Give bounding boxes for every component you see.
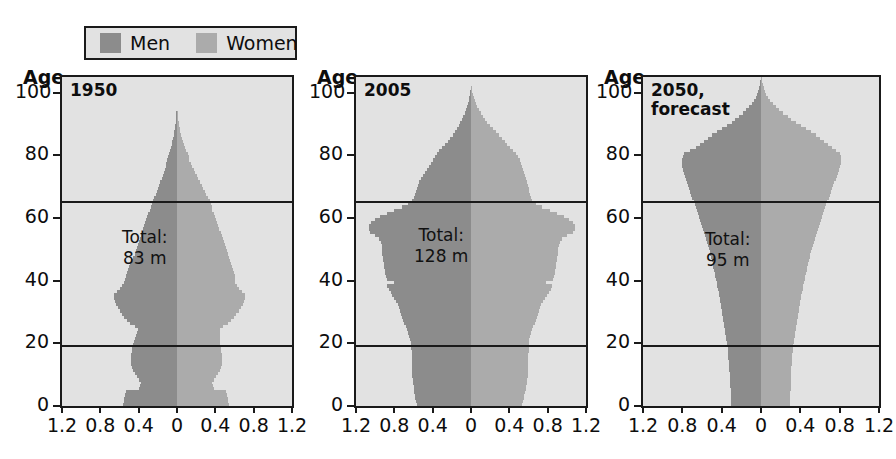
y-axis-tick [347, 342, 356, 344]
reference-line-age-65 [643, 201, 879, 203]
x-axis-tick [214, 406, 216, 413]
y-axis-label: 0 [309, 393, 343, 415]
legend: Men Women [84, 26, 297, 60]
x-axis-label: 1.2 [275, 414, 309, 436]
x-axis-tick [253, 406, 255, 413]
x-axis-label: 0 [454, 414, 488, 436]
y-axis-tick [634, 217, 643, 219]
x-axis-label: 0.4 [783, 414, 817, 436]
x-axis-label: 0.8 [377, 414, 411, 436]
y-axis-tick [634, 342, 643, 344]
bar-women [761, 77, 762, 81]
y-axis-tick [634, 92, 643, 94]
x-axis-label: 0.8 [665, 414, 699, 436]
y-axis-label: 80 [596, 142, 630, 164]
x-axis-tick [839, 406, 841, 413]
y-axis-label: 60 [309, 205, 343, 227]
bar-women [177, 111, 178, 115]
x-axis-tick [878, 406, 880, 413]
y-axis-label: 60 [596, 205, 630, 227]
x-axis-tick [721, 406, 723, 413]
bar-women [471, 86, 472, 90]
y-axis-label: 80 [15, 142, 49, 164]
y-axis-label: 100 [596, 80, 630, 102]
total-population-label: Total: 83 m [122, 227, 167, 269]
panel-title: 1950 [70, 81, 117, 100]
reference-line-age-19 [356, 345, 586, 347]
y-axis-tick [634, 280, 643, 282]
x-axis-tick [138, 406, 140, 413]
y-axis-label: 20 [596, 330, 630, 352]
x-axis-label: 0.8 [823, 414, 857, 436]
y-axis-tick [53, 92, 62, 94]
x-axis-tick [585, 406, 587, 413]
x-axis-tick [760, 406, 762, 413]
x-axis-label: 0.4 [122, 414, 156, 436]
y-axis-label: 40 [309, 268, 343, 290]
x-axis-tick [61, 406, 63, 413]
legend-label-women: Women [226, 32, 298, 54]
x-axis-tick [470, 406, 472, 413]
x-axis-label: 1.2 [569, 414, 603, 436]
x-axis-label: 0.4 [705, 414, 739, 436]
plot-area: 1950Total: 83 m [60, 75, 294, 408]
y-axis-tick [347, 92, 356, 94]
y-axis-label: 100 [15, 80, 49, 102]
reference-line-age-19 [643, 345, 879, 347]
y-axis-tick [53, 217, 62, 219]
y-axis-label: 0 [15, 393, 49, 415]
y-axis-tick [53, 154, 62, 156]
y-axis-tick [634, 154, 643, 156]
legend-entry-men: Men [100, 32, 170, 54]
plot-area: 2005Total: 128 m [354, 75, 588, 408]
reference-line-age-19 [62, 345, 292, 347]
legend-swatch-women-icon [196, 33, 217, 53]
x-axis-label: 0 [744, 414, 778, 436]
y-axis-label: 40 [596, 268, 630, 290]
plot-wrapper: 2005Total: 128 m1008060402001.20.80.400.… [354, 75, 588, 408]
y-axis-label: 100 [309, 80, 343, 102]
y-axis-tick [347, 154, 356, 156]
x-axis-label: 1.2 [862, 414, 896, 436]
x-axis-tick [681, 406, 683, 413]
y-axis-tick [347, 280, 356, 282]
x-axis-tick [99, 406, 101, 413]
x-axis-label: 0 [160, 414, 194, 436]
y-axis-label: 0 [596, 393, 630, 415]
plot-area: 2050, forecastTotal: 95 m [641, 75, 881, 408]
x-axis-label: 0.4 [416, 414, 450, 436]
x-axis-label: 1.2 [626, 414, 660, 436]
y-axis-tick [347, 217, 356, 219]
x-axis-tick [291, 406, 293, 413]
x-axis-tick [799, 406, 801, 413]
plot-wrapper: 2050, forecastTotal: 95 m1008060402001.2… [641, 75, 881, 408]
x-axis-label: 0.4 [198, 414, 232, 436]
plot-wrapper: 1950Total: 83 m1008060402001.20.80.400.4… [60, 75, 294, 408]
total-population-label: Total: 128 m [414, 225, 468, 267]
x-axis-tick [547, 406, 549, 413]
legend-entry-women: Women [196, 32, 298, 54]
y-axis-label: 20 [15, 330, 49, 352]
x-axis-tick [176, 406, 178, 413]
y-axis-label: 60 [15, 205, 49, 227]
x-axis-tick [508, 406, 510, 413]
x-axis-label: 0.8 [531, 414, 565, 436]
x-axis-label: 0.8 [83, 414, 117, 436]
y-axis-label: 80 [309, 142, 343, 164]
y-axis-tick [53, 280, 62, 282]
x-axis-label: 1.2 [45, 414, 79, 436]
x-axis-label: 0.4 [492, 414, 526, 436]
y-axis-label: 40 [15, 268, 49, 290]
y-axis-tick [53, 342, 62, 344]
legend-swatch-men-icon [100, 33, 121, 53]
x-axis-label: 0.8 [237, 414, 271, 436]
total-population-label: Total: 95 m [705, 229, 750, 271]
panel-title: 2005 [364, 81, 411, 100]
x-axis-tick [355, 406, 357, 413]
x-axis-tick [642, 406, 644, 413]
reference-line-age-65 [356, 201, 586, 203]
x-axis-tick [393, 406, 395, 413]
panel-title: 2050, forecast [651, 81, 730, 119]
reference-line-age-65 [62, 201, 292, 203]
